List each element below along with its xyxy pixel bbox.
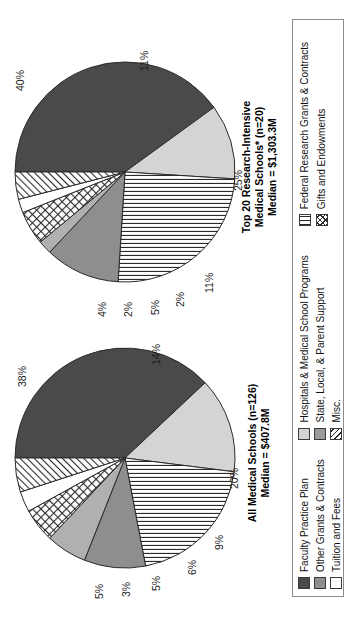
legend-column-1: Faculty Practice Plan Other Grants & Con… [298,440,339,589]
legend-swatch-gifts-and-endowments [316,214,328,226]
pct-label-9: 9% [213,535,225,550]
legend-label-hospitals-medical-school-programs: Hospitals & Medical School Programs [299,255,310,422]
pct-label-2-tuition: 2% [122,302,134,317]
legend-box: Faculty Practice Plan Other Grants & Con… [292,19,344,597]
pct-label-38: 38% [16,366,28,387]
caption-title-line2: Medical Schools* (n=20) [253,77,266,257]
legend-item-gifts-and-endowments[interactable]: Gifts and Endowments [315,27,328,226]
legend-swatch-state-local-parent-support [314,428,326,440]
pct-label-40: 40% [14,70,26,91]
pct-label-3: 3% [120,582,132,597]
pct-label-4-misc: 4% [96,302,108,317]
legend-swatch-tuition-and-fees [330,577,342,589]
legend-item-hospitals-medical-school-programs[interactable]: Hospitals & Medical School Programs [298,226,310,439]
legend-label-faculty-practice-plan: Faculty Practice Plan [299,478,310,572]
caption-top-20-research-intensive: Top 20 Research-Intensive Medical School… [240,77,279,257]
legend-swatch-faculty-practice-plan [298,577,310,589]
pct-label-5-gifts: 5% [149,300,161,315]
pct-label-20: 20% [228,468,240,489]
caption-subtitle: Median = $407.8M [259,383,272,523]
pct-label-5-gifts: 5% [150,576,162,591]
slice-federal-research [118,172,235,282]
caption-title: All Medical Schools (n=126) [246,383,259,523]
pct-label-11-other: 11% [203,273,215,293]
legend-label-tuition-and-fees: Tuition and Fees [331,498,342,572]
pie-svg-top-20-research-intensive [10,57,240,287]
legend-label-misc: Misc. [331,399,342,422]
legend-swatch-misc [330,428,342,440]
legend-item-tuition-and-fees[interactable]: Tuition and Fees [330,440,342,589]
legend-item-state-local-parent-support[interactable]: State, Local, & Parent Support [314,226,326,439]
pie-svg-all-medical-schools [10,343,240,573]
pct-label-14: 14% [150,344,162,365]
legend-label-other-grants-contracts: Other Grants & Contracts [315,459,326,572]
legend-column-2: Hospitals & Medical School Programs Stat… [298,226,339,439]
caption-title-line1: Top 20 Research-Intensive [240,77,253,257]
legend-item-misc[interactable]: Misc. [330,226,342,439]
pct-label-6: 6% [186,560,198,575]
pie-chart-all-medical-schools: 38% 14% 20% 9% 6% 5% 3% 5% All Medical S… [10,343,240,573]
pct-label-11-hosp: 11% [138,51,150,71]
legend-label-federal-research-grants-contracts: Federal Research Grants & Contracts [299,42,310,209]
rotated-figure: 38% 14% 20% 9% 6% 5% 3% 5% All Medical S… [0,0,361,617]
pct-label-5-misc: 5% [93,584,105,599]
legend-item-federal-research-grants-contracts[interactable]: Federal Research Grants & Contracts [298,27,311,226]
legend-swatch-other-grants-contracts [314,577,326,589]
pct-label-2-state: 2% [174,292,186,307]
legend-swatch-federal-research-grants-contracts [299,214,311,226]
legend-label-state-local-parent-support: State, Local, & Parent Support [315,287,326,422]
caption-all-medical-schools: All Medical Schools (n=126) Median = $40… [246,383,272,523]
legend-column-3: Federal Research Grants & Contracts Gift… [298,27,339,226]
caption-subtitle: Median = $1,303.3M [266,77,279,257]
pie-chart-top-20-research-intensive: 40% 11% 25% 11% 2% 5% 2% 4% Top 20 Resea… [10,57,240,287]
figure-canvas: 38% 14% 20% 9% 6% 5% 3% 5% All Medical S… [0,0,361,617]
legend-label-gifts-and-endowments: Gifts and Endowments [316,109,327,210]
legend-swatch-hospitals-medical-school-programs [298,428,310,440]
legend-item-other-grants-contracts[interactable]: Other Grants & Contracts [314,440,326,589]
legend-item-faculty-practice-plan[interactable]: Faculty Practice Plan [298,440,310,589]
